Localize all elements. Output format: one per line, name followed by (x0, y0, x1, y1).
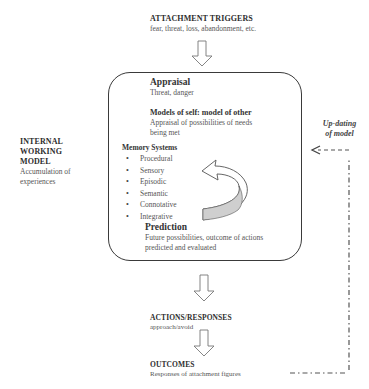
updating-line-1: Up-dating (312, 119, 367, 129)
down-arrow-actions (194, 275, 214, 301)
outcomes-title: OUTCOMES (150, 360, 290, 370)
memory-item: Episodic (122, 176, 212, 188)
models-block: Models of self: model of other Appraisal… (150, 108, 300, 137)
updating-label: Up-dating of model (312, 119, 367, 139)
actions-block: ACTIONS/RESPONSES approach/avoid (150, 313, 290, 333)
prediction-block: Prediction Future possibilities, outcome… (145, 222, 305, 252)
memory-systems-list: Procedural Sensory Episodic Semantic Con… (122, 153, 212, 222)
updating-line-2: of model (312, 129, 367, 139)
iwm-title-line-2: WORKING (20, 147, 110, 157)
iwm-subtitle-line-1: Accumulation of (20, 167, 110, 177)
memory-item: Connotative (122, 199, 212, 211)
actions-subtitle: approach/avoid (150, 323, 290, 333)
actions-title: ACTIONS/RESPONSES (150, 313, 290, 323)
appraisal-block: Appraisal Threat, danger (150, 77, 300, 98)
iwm-title-line-1: INTERNAL (20, 137, 110, 147)
triggers-title: ATTACHMENT TRIGGERS (150, 14, 310, 24)
outcomes-block: OUTCOMES Responses of attachment figures (150, 360, 290, 380)
outcomes-subtitle: Responses of attachment figures (150, 370, 290, 380)
memory-item: Integrative (122, 211, 212, 223)
models-subtitle-line-1: Appraisal of possibilities of needs (150, 118, 300, 128)
appraisal-title: Appraisal (150, 77, 300, 88)
triggers-block: ATTACHMENT TRIGGERS fear, threat, loss, … (150, 14, 310, 34)
prediction-subtitle-line-1: Future possibilities, outcome of actions (145, 233, 305, 243)
models-title: Models of self: model of other (150, 108, 300, 118)
memory-item: Semantic (122, 188, 212, 200)
prediction-subtitle-line-2: predicted and evaluated (145, 243, 305, 253)
triggers-subtitle: fear, threat, loss, abandonment, etc. (150, 24, 310, 34)
memory-item: Sensory (122, 165, 212, 177)
appraisal-subtitle: Threat, danger (150, 88, 300, 98)
down-arrow-triggers (192, 41, 212, 66)
internal-working-model-block: INTERNAL WORKING MODEL Accumulation of e… (20, 137, 110, 186)
models-subtitle-line-2: being met (150, 128, 300, 138)
iwm-title-line-3: MODEL (20, 157, 110, 167)
prediction-title: Prediction (145, 222, 305, 233)
memory-systems-title: Memory Systems (122, 143, 212, 153)
memory-systems-block: Memory Systems Procedural Sensory Episod… (122, 143, 212, 222)
iwm-subtitle-line-2: experiences (20, 177, 110, 187)
down-arrow-outcomes (194, 330, 214, 356)
memory-item: Procedural (122, 153, 212, 165)
